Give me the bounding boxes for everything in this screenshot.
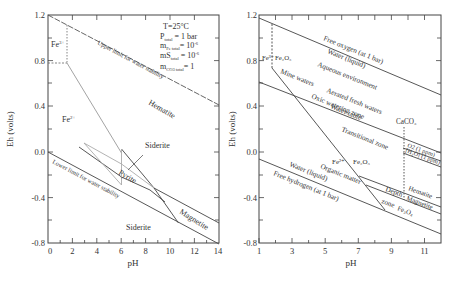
fe-total-label: mFe total= 10-6 [160,41,199,51]
conditions-legend: T=25°C Ptotal = 1 bar mFe total= 10-6 mS… [160,22,200,72]
right-y-axis-label: Eh (volts) [227,111,237,147]
x-tick-label: 6 [119,246,123,256]
fe2o3-lower-label: Fe₂O₃ [353,158,370,166]
x-tick-label: 11 [420,246,428,256]
x-tick-label: 5 [323,246,327,256]
upper-limit-label: Upper limit for water stability [97,39,167,80]
x-tick-label: 10 [166,246,175,256]
hematite-field-label: Hematite [147,98,177,121]
s-total-label: mStotal = 10-6 [160,51,200,61]
siderite-lower-field-label: Siderite [126,223,151,232]
temperature-label: T=25°C [163,22,189,31]
left-y-tick-labels: 1.2 0.8 0.4 0.0 -0.4 -0.8 [32,10,46,248]
fe3o4-label: Fe₃O₄ [397,204,415,216]
x-tick-label: 12 [190,246,199,256]
y-tick-label: 1.2 [34,10,45,20]
left-x-axis-label: pH [128,258,140,268]
fe3-right-label: Fe³⁺ [262,54,275,61]
right-chart: 1 3 5 7 9 11 1.2 0.8 0.4 0.0 -0.4 -0.8 p… [227,10,441,268]
y-tick-label: 0.4 [246,101,257,111]
fe2-hematite-boundary [67,63,122,153]
lower-limit-label: Lower limit for water stability [52,158,122,200]
hematite-siderite-boundary [122,149,155,188]
x-tick-label: 4 [95,246,100,256]
x-tick-label: 7 [356,246,360,256]
x-tick-label: 14 [214,246,223,256]
y-tick-label: 0.4 [34,101,45,111]
magnetite-siderite-boundary [154,188,179,223]
depth-label: Depth [384,185,404,199]
y-tick-label: 0.0 [246,147,257,157]
figure: 0 2 4 6 8 10 12 14 1.2 0.8 0.4 0.0 -0.4 … [0,0,457,282]
y-tick-label: 0.0 [34,147,45,157]
y-tick-label: -0.8 [244,238,257,248]
x-tick-label: 0 [48,246,52,256]
fe3-label: Fe3+ [51,40,65,49]
left-x-tick-labels: 0 2 4 6 8 10 12 14 [48,246,223,256]
fe2-right-label: Fe²⁺ [332,158,345,166]
y-tick-label: -0.4 [32,193,46,203]
x-tick-label: 9 [389,246,393,256]
left-chart: 0 2 4 6 8 10 12 14 1.2 0.8 0.4 0.0 -0.4 … [5,10,223,268]
right-field-labels: Free oxygen (at 1 bar) Water (liquid) Aq… [262,34,441,216]
siderite-upper-field-label: Siderite [145,141,170,150]
right-x-axis-label: pH [346,258,358,268]
y-tick-label: 1.2 [246,10,257,20]
x-tick-label: 3 [290,246,294,256]
left-y-axis-label: Eh (volts) [5,111,15,147]
y-tick-label: -0.4 [244,193,258,203]
x-tick-label: 1 [257,246,261,256]
magnetite-field-label: Magnetite [178,207,211,232]
transitional-zone-label: Transitional zone [340,125,389,151]
fe2o3-upper-label: Fe₂O₃ [275,54,292,61]
siderite-leader-line [128,155,143,170]
co3-total-label: mCO3 total= 1 [160,62,194,72]
eh-ph-figure: 0 2 4 6 8 10 12 14 1.2 0.8 0.4 0.0 -0.4 … [0,0,457,282]
x-tick-label: 8 [143,246,147,256]
fe2-label: Fe2+ [62,115,76,124]
right-y-tick-labels: 1.2 0.8 0.4 0.0 -0.4 -0.8 [244,10,258,248]
caco3-label: CaCO₃ [396,118,417,126]
mine-waters-label: Mine waters [279,67,315,88]
y-tick-label: -0.8 [32,238,45,248]
right-x-tick-labels: 1 3 5 7 9 11 [257,246,429,256]
x-tick-label: 2 [70,246,74,256]
y-tick-label: 0.8 [34,56,45,66]
aqueous-environment-label: Aqueous environment [316,60,378,91]
y-tick-label: 0.8 [246,56,257,66]
